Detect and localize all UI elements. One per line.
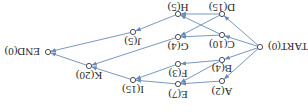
node-j [130,29,135,34]
node-label-end: END(0) [4,45,40,58]
node-label-start: START(0) [268,40,308,53]
node-label-j: J(5) [124,35,141,48]
edge-c-g [181,35,219,37]
node-i [130,77,135,82]
node-k [86,63,91,68]
edge-j-end [51,33,130,52]
edge-h-j [136,15,176,31]
node-label-h: H(5) [167,1,188,14]
node-label-c: C(10) [209,38,235,51]
diagram-canvas: START(0)A(2)B(4)C(10)D(15)E(7)F(3)G(4)H(… [0,0,308,112]
node-c [219,32,224,37]
edge-k-end [51,53,87,65]
node-f [175,61,180,66]
node-label-a: A(2) [211,85,232,98]
network-diagram: START(0)A(2)B(4)C(10)D(15)E(7)F(3)G(4)H(… [0,0,308,112]
node-end [45,49,50,54]
node-a [219,78,224,83]
node-label-e: E(7) [168,88,188,101]
node-label-g: G(4) [167,40,188,53]
node-label-f: F(3) [168,67,187,80]
node-label-b: B(4) [212,62,233,75]
node-start [257,44,262,49]
node-label-i: I(15) [122,83,144,96]
node-b [219,57,224,62]
node-e [175,81,180,86]
node-label-d: D(15) [209,1,236,14]
node-g [175,34,180,39]
edge-a-e [181,81,219,84]
node-label-k: K(20) [76,69,103,82]
